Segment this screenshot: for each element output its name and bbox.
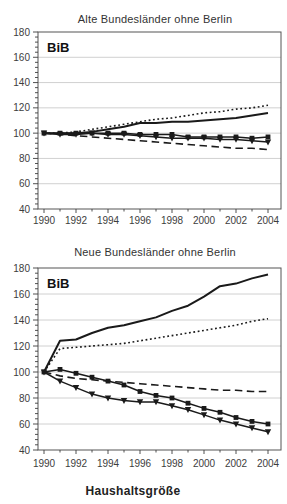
x-tick-label: 2002: [225, 215, 248, 226]
square-marker: [90, 375, 95, 380]
square-marker: [234, 415, 239, 420]
square-marker: [186, 401, 191, 406]
y-tick-label: 120: [13, 102, 30, 113]
y-tick-label: 100: [13, 128, 30, 139]
x-tick-label: 1990: [33, 458, 56, 469]
square-marker: [106, 379, 111, 384]
y-tick-label: 180: [13, 263, 30, 274]
square-marker: [202, 406, 207, 411]
square-marker: [74, 371, 79, 376]
y-tick-label: 80: [19, 153, 31, 164]
plot-border: [38, 268, 281, 450]
x-tick-label: 1996: [129, 215, 152, 226]
bib-label: BiB: [47, 40, 69, 55]
y-tick-label: 160: [13, 289, 30, 300]
square-marker: [170, 396, 175, 401]
y-tick-label: 160: [13, 52, 30, 63]
figure: Alte Bundesländer ohne Berlin 4060801001…: [0, 0, 287, 504]
y-tick-label: 40: [19, 204, 31, 215]
x-tick-label: 1994: [97, 215, 120, 226]
y-tick-label: 140: [13, 315, 30, 326]
square-marker: [266, 135, 271, 140]
y-tick-label: 80: [19, 393, 31, 404]
square-marker: [154, 393, 159, 398]
y-tick-label: 100: [13, 367, 30, 378]
solid-line: [44, 113, 268, 133]
x-tick-label: 2004: [257, 215, 280, 226]
x-tick-label: 2000: [193, 458, 216, 469]
x-tick-label: 2002: [225, 458, 248, 469]
x-tick-label: 1996: [129, 458, 152, 469]
y-tick-label: 40: [19, 445, 31, 456]
solid-line: [44, 275, 268, 373]
x-tick-label: 1994: [97, 458, 120, 469]
dotted-line: [44, 319, 268, 372]
x-tick-label: 1998: [161, 458, 184, 469]
x-tick-label: 2004: [257, 458, 280, 469]
neue-bundeslaender-chart: 4060801001201401601801990199219941996199…: [0, 240, 287, 486]
y-tick-label: 60: [19, 419, 31, 430]
x-tick-label: 1992: [65, 215, 88, 226]
triangle-marker: [265, 429, 271, 435]
alte-bundeslaender-chart: 4060801001201401601801990199219941996199…: [0, 0, 287, 233]
square-marker: [58, 367, 63, 372]
y-tick-label: 140: [13, 77, 30, 88]
x-tick-label: 1992: [65, 458, 88, 469]
bib-label: BiB: [47, 276, 69, 291]
x-tick-label: 2000: [193, 215, 216, 226]
dotted-line: [44, 105, 268, 133]
square-marker: [122, 383, 127, 388]
x-tick-label: 1990: [33, 215, 56, 226]
y-tick-label: 120: [13, 341, 30, 352]
x-tick-label: 1998: [161, 215, 184, 226]
square-marker: [250, 419, 255, 424]
y-tick-label: 180: [13, 27, 30, 38]
square-marker: [218, 410, 223, 415]
plot-border: [38, 32, 281, 209]
x-axis-title: Haushaltsgröße: [0, 484, 266, 498]
y-tick-label: 60: [19, 178, 31, 189]
square-marker: [138, 389, 143, 394]
square-marker: [266, 422, 271, 427]
